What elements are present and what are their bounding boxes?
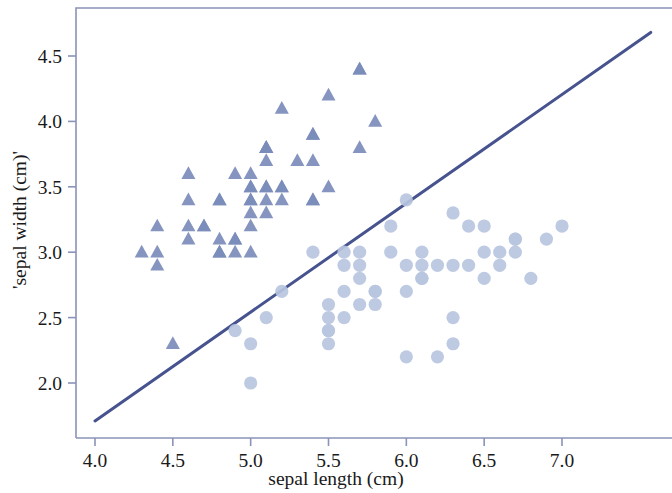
data-point-circle (415, 272, 428, 285)
data-point-circle (509, 246, 522, 259)
x-tick-label: 4.5 (161, 450, 185, 471)
x-tick-label: 7.0 (550, 450, 574, 471)
data-point-circle (353, 298, 366, 311)
data-point-circle (400, 350, 413, 363)
y-tick-label: 4.5 (38, 46, 62, 67)
data-point-circle (244, 337, 257, 350)
x-tick-label: 5.0 (238, 450, 262, 471)
data-point-circle (322, 324, 335, 337)
data-point-circle (540, 233, 553, 246)
data-point-circle (462, 259, 475, 272)
data-point-circle (322, 337, 335, 350)
data-point-circle (478, 246, 491, 259)
y-tick-label: 3.5 (38, 177, 62, 198)
scatter-plot-figure: 4.04.55.05.56.06.57.0 2.02.53.03.54.04.5… (0, 0, 672, 493)
data-point-circle (400, 193, 413, 206)
data-point-circle (369, 298, 382, 311)
data-point-circle (431, 259, 444, 272)
data-point-circle (353, 246, 366, 259)
data-point-circle (446, 259, 459, 272)
data-point-circle (415, 259, 428, 272)
data-point-circle (384, 246, 397, 259)
data-point-circle (446, 311, 459, 324)
data-point-circle (400, 259, 413, 272)
data-point-circle (244, 376, 257, 389)
data-point-circle (509, 233, 522, 246)
data-point-circle (446, 337, 459, 350)
data-point-circle (555, 219, 568, 232)
data-point-circle (260, 311, 273, 324)
data-point-circle (524, 272, 537, 285)
data-point-circle (337, 311, 350, 324)
data-point-circle (415, 246, 428, 259)
y-axis-title: 'sepal width (cm)' (9, 151, 31, 289)
data-point-circle (384, 219, 397, 232)
data-point-circle (353, 272, 366, 285)
plot-background (0, 0, 672, 493)
data-point-circle (337, 246, 350, 259)
y-tick-label: 2.0 (38, 373, 62, 394)
x-tick-label: 6.5 (472, 450, 496, 471)
data-point-circle (275, 285, 288, 298)
y-tick-label: 3.0 (38, 242, 62, 263)
data-point-circle (353, 259, 366, 272)
y-tick-label: 2.5 (38, 308, 62, 329)
data-point-circle (446, 206, 459, 219)
data-point-circle (322, 298, 335, 311)
data-point-circle (229, 324, 242, 337)
data-point-circle (493, 246, 506, 259)
data-point-circle (478, 272, 491, 285)
x-axis-title: sepal length (cm) (268, 468, 403, 490)
data-point-circle (431, 350, 444, 363)
chart-canvas: 4.04.55.05.56.06.57.0 2.02.53.03.54.04.5… (0, 0, 672, 493)
data-point-circle (306, 246, 319, 259)
data-point-circle (462, 219, 475, 232)
x-tick-label: 4.0 (83, 450, 107, 471)
data-point-circle (400, 285, 413, 298)
y-tick-label: 4.0 (38, 111, 62, 132)
data-point-circle (493, 259, 506, 272)
data-point-circle (322, 311, 335, 324)
data-point-circle (369, 285, 382, 298)
data-point-circle (337, 285, 350, 298)
data-point-circle (337, 259, 350, 272)
data-point-circle (478, 219, 491, 232)
